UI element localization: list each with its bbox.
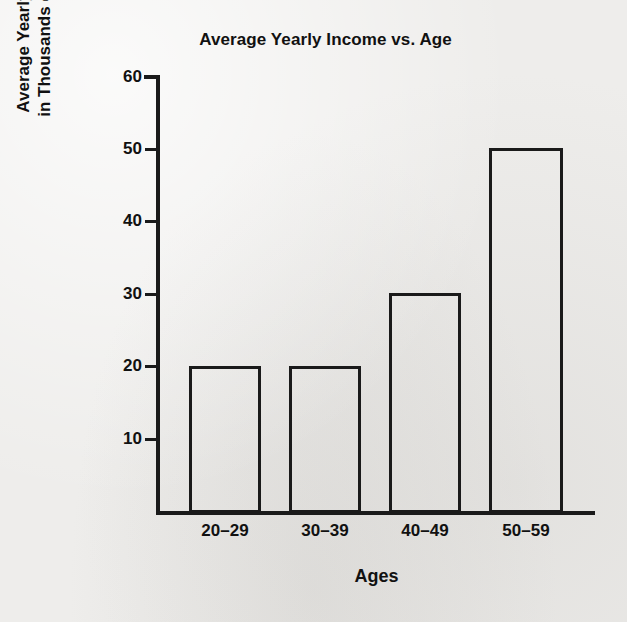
y-tick-40 <box>145 220 159 223</box>
y-tick-label-40: 40 <box>98 212 142 229</box>
x-category-label-50-59: 50–59 <box>471 521 581 541</box>
y-tick-label-60: 60 <box>98 68 142 85</box>
y-tick-label-20: 20 <box>98 357 142 374</box>
y-tick-30 <box>145 293 159 296</box>
x-category-label-20-29: 20–29 <box>170 521 280 541</box>
chart-title: Average Yearly Income vs. Age <box>0 30 627 50</box>
y-axis-title-line-2: in Thousands of Dollars <box>35 0 56 170</box>
x-category-label-40-49: 40–49 <box>370 521 480 541</box>
y-tick-20 <box>145 365 159 368</box>
x-axis-title: Ages <box>158 566 595 587</box>
y-tick-label-10: 10 <box>98 430 142 447</box>
y-tick-label-50: 50 <box>98 140 142 157</box>
y-tick-60 <box>145 76 159 79</box>
bar-chart: Average Yearly Income vs. Age Average Ye… <box>0 0 627 622</box>
bar-40-49 <box>389 293 461 513</box>
y-tick-10 <box>145 438 159 441</box>
y-tick-50 <box>145 148 159 151</box>
y-axis-title: Average Yearly Income in Thousands of Do… <box>14 0 55 170</box>
bar-50-59 <box>489 148 563 513</box>
y-tick-label-30: 30 <box>98 285 142 302</box>
bar-30-39 <box>289 366 361 513</box>
y-axis-title-line-1: Average Yearly Income <box>14 0 35 170</box>
bar-20-29 <box>189 366 261 513</box>
x-category-label-30-39: 30–39 <box>270 521 380 541</box>
